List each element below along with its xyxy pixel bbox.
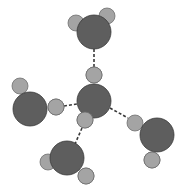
hydrogen-atom xyxy=(78,168,94,184)
oxygen-atom xyxy=(77,15,111,49)
hydrogen-bond-line xyxy=(64,104,77,106)
water-molecules xyxy=(12,8,174,184)
hydrogen-atom xyxy=(48,99,64,115)
hydrogen-atom xyxy=(86,67,102,83)
water-molecule-top xyxy=(68,8,115,49)
hydrogen-bond-line xyxy=(110,108,128,118)
water-molecule-left xyxy=(12,78,64,126)
water-molecule-right xyxy=(127,115,174,168)
hydrogen-atom xyxy=(77,112,93,128)
water-molecule-bottom xyxy=(40,141,94,184)
hydrogen-bond-line xyxy=(75,128,82,144)
hydrogen-atom xyxy=(144,152,160,168)
oxygen-atom xyxy=(50,141,84,175)
hydrogen-atom xyxy=(127,115,143,131)
water-cluster-diagram xyxy=(0,0,185,193)
oxygen-atom xyxy=(140,118,174,152)
hydrogen-atom xyxy=(12,78,28,94)
water-molecule-center xyxy=(77,67,111,128)
oxygen-atom xyxy=(13,92,47,126)
